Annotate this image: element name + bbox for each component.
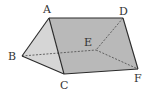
vertex-label-D: D bbox=[119, 5, 128, 18]
vertex-label-C: C bbox=[60, 79, 68, 92]
vertex-label-B: B bbox=[8, 50, 16, 63]
prism-diagram: A D B C E F bbox=[0, 0, 149, 94]
face-ACFD bbox=[49, 18, 138, 74]
vertex-label-A: A bbox=[42, 3, 52, 16]
vertex-label-E: E bbox=[84, 36, 92, 49]
vertex-label-F: F bbox=[134, 72, 142, 85]
